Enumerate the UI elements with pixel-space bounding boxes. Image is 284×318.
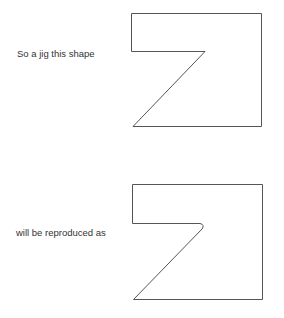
original-jig-shape [132,14,262,127]
shape-diagram [0,0,284,318]
reproduced-jig-shape [133,185,263,300]
